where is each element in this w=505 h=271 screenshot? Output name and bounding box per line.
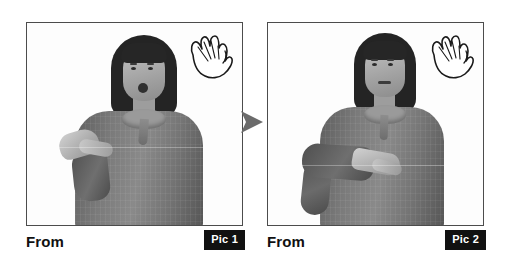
from-label: From — [267, 233, 305, 251]
photo-scan-seam — [27, 147, 242, 148]
subject-eyebrow-left — [371, 59, 378, 61]
subject-fringe — [121, 43, 167, 63]
panel-caption: From Pic 1 — [26, 226, 243, 260]
subject-collar-placket — [138, 119, 149, 146]
sequence-panel-2: From Pic 2 — [267, 22, 484, 226]
open-hand-icon — [425, 31, 475, 83]
subject-eyebrow-left — [130, 63, 137, 65]
photo-frame — [267, 22, 484, 226]
subject-eye-right — [148, 67, 153, 70]
transition-arrow-icon — [240, 109, 264, 135]
subject-eye-right — [388, 63, 393, 66]
pic-badge: Pic 1 — [204, 230, 245, 250]
pic-badge: Pic 2 — [445, 230, 486, 250]
subject-eyebrow-right — [387, 59, 394, 61]
subject-fringe — [363, 41, 407, 60]
from-label: From — [26, 233, 64, 251]
sequence-panel-1: From Pic 1 — [26, 22, 243, 226]
subject-eye-left — [131, 67, 136, 70]
subject-mouth — [378, 81, 391, 84]
figure-canvas: From Pic 1 — [0, 0, 505, 271]
photo-scan-seam — [268, 165, 483, 166]
subject-mouth — [138, 83, 148, 93]
subject-eyebrow-right — [147, 63, 154, 65]
panel-caption: From Pic 2 — [267, 226, 484, 260]
open-hand-icon — [184, 31, 234, 83]
photo-frame — [26, 22, 243, 226]
subject-eye-left — [372, 63, 377, 66]
subject-collar-placket — [380, 115, 389, 140]
